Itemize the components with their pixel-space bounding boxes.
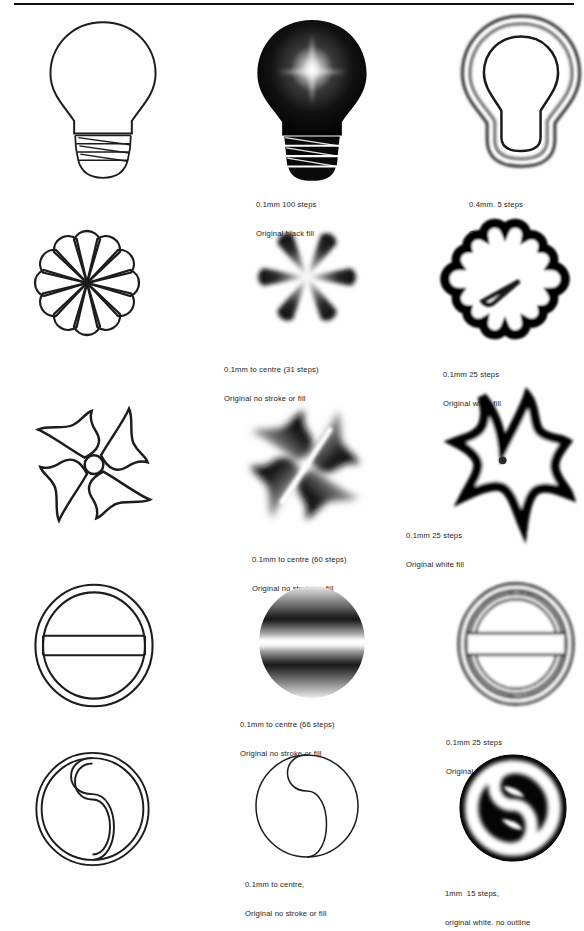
caption-line: Original no stroke or fill (245, 909, 327, 919)
yinyang-thin-outline-art (248, 744, 366, 868)
barred-circle-outline-art (30, 578, 158, 713)
cell-lightbulb-white-blend (458, 16, 584, 186)
cell-barredcircle-white-blend (454, 578, 578, 710)
barred-circle-white-gradient-art (454, 578, 578, 710)
caption-line: 1mm 15 steps, (445, 889, 530, 899)
cell-barredcircle-outline (30, 578, 158, 713)
cell-barredcircle-bar-blend (252, 578, 372, 706)
caption-line: Original white fill (406, 560, 464, 570)
cell-yinyang-outline (30, 744, 155, 874)
lightbulb-outline-art (28, 16, 178, 186)
rosette-white-gradient-art (444, 218, 566, 340)
caption-line: 0.1mm to centre (31 steps) (224, 365, 319, 375)
cell-rosette-spikes-blend (248, 218, 366, 336)
cell-pinwheel-blades-blend (240, 392, 370, 542)
row-pinwheel: 0.1mm to centre (60 steps) Original no s… (0, 392, 578, 577)
lightbulb-black-gradient-art (246, 16, 378, 186)
caption-line: 0.1mm to centre (66 steps) (240, 720, 335, 730)
top-rule-divider (14, 3, 574, 5)
caption-line: original white. no outline (445, 918, 530, 928)
pinwheel-blades-gradient-art (240, 392, 370, 542)
caption-line: 0.1mm 25 steps (406, 531, 464, 541)
cell-lightbulb-black-blend (246, 16, 378, 186)
row-lightbulb: 0.1mm 100 steps Original black fill 0.4m… (0, 16, 578, 216)
caption-yinyang-thin: 0.1mm to centre, Original no stroke or f… (245, 861, 327, 931)
cell-rosette-outline (22, 218, 152, 348)
rosette-spikes-gradient-art (248, 218, 366, 336)
cell-yinyang-white-blend (452, 744, 574, 872)
caption-line: 0.1mm to centre (60 steps) (252, 555, 347, 565)
row-rosette: 0.1mm to centre (31 steps) Original no s… (0, 218, 578, 393)
barred-circle-gradient-art (252, 578, 372, 706)
yinyang-outline-art (30, 744, 155, 874)
yinyang-white-gradient-art (452, 744, 574, 872)
caption-line: 0.1mm 100 steps (256, 200, 317, 210)
rosette-outline-art (22, 218, 152, 348)
caption-yinyang-white: 1mm 15 steps, original white. no outline (445, 870, 530, 931)
caption-line: 0.4mm. 5 steps (469, 200, 527, 210)
row-yinyang: 0.1mm to centre, Original no stroke or f… (0, 744, 578, 914)
caption-line: 0.1mm 25 steps (443, 370, 501, 380)
cell-pinwheel-outline (24, 392, 164, 542)
row-barred-circle: 0.1mm to centre (66 steps) Original no s… (0, 578, 578, 743)
caption-line: 0.1mm to centre, (245, 880, 327, 890)
cell-lightbulb-outline (28, 16, 178, 186)
cell-rosette-white-blend (444, 218, 566, 340)
lightbulb-white-gradient-art (458, 16, 584, 186)
pinwheel-outline-art (24, 392, 164, 542)
cell-yinyang-thin-outline (248, 744, 366, 868)
